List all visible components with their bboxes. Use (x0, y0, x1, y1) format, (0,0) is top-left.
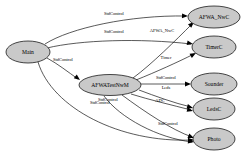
arrowhead-icon (74, 74, 82, 81)
arrowhead-icon (185, 82, 191, 87)
node-shape[interactable] (79, 75, 141, 96)
arrowhead-icon (182, 13, 188, 18)
node-shape[interactable] (192, 36, 236, 58)
node-shape[interactable] (193, 128, 235, 150)
node-shape[interactable] (191, 73, 237, 95)
nodes-layer: MainAFWATestNwMAFWA_NwCTimerCSounderLeds… (6, 6, 240, 150)
diagram-canvas: MainAFWATestNwMAFWA_NwCTimerCSounderLeds… (0, 0, 248, 158)
node-shape[interactable] (193, 98, 235, 120)
edge-label: Timer (161, 55, 172, 60)
edge-line (104, 96, 192, 142)
edge-label: StdControl (53, 57, 74, 62)
graph-edge (45, 13, 188, 44)
edge-line (47, 58, 78, 79)
edge-label: StdControl (156, 75, 177, 80)
graph-edge (133, 20, 196, 78)
graph-node-afwatestnwm[interactable]: AFWATestNwM (79, 75, 141, 96)
edge-label: StdControl (104, 29, 125, 34)
edge-line (47, 41, 191, 48)
graph-edge (139, 90, 194, 110)
node-shape[interactable] (188, 6, 240, 28)
edge-label: StdControl (104, 11, 125, 16)
graph-node-timerc[interactable]: TimerC (192, 36, 236, 58)
edge-line (136, 54, 194, 80)
edge-line (38, 62, 192, 140)
graph-node-photo[interactable]: Photo (193, 128, 235, 150)
graph-edge (131, 94, 194, 113)
component-wiring-graph: MainAFWATestNwMAFWA_NwCTimerCSounderLeds… (0, 0, 248, 158)
edge-label: AFWA_NwC (150, 28, 175, 33)
graph-node-afwa_nwc[interactable]: AFWA_NwC (188, 6, 240, 28)
edge-line (133, 24, 192, 78)
graph-edge (104, 96, 194, 144)
graph-node-main[interactable]: Main (6, 41, 50, 63)
graph-node-ledsc[interactable]: LedsC (193, 98, 235, 120)
graph-node-sounder[interactable]: Sounder (191, 73, 237, 95)
graph-edge (47, 58, 81, 82)
graph-edge (38, 62, 194, 143)
graph-edge (136, 51, 197, 80)
edge-label: Leds (162, 85, 171, 90)
node-shape[interactable] (6, 41, 50, 63)
edge-line (45, 16, 186, 44)
graph-edge (141, 82, 191, 87)
